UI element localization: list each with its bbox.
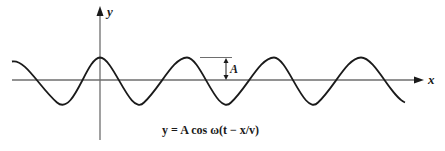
wave-diagram: x y A y = A cos ω(t − x/v) <box>0 0 445 151</box>
amplitude-label: A <box>229 62 238 76</box>
cosine-wave <box>12 58 405 105</box>
y-axis-arrow-icon <box>97 6 104 16</box>
amplitude-arrow-down-icon <box>224 75 229 80</box>
amplitude-arrow-up-icon <box>224 58 229 63</box>
x-axis-arrow-icon <box>414 77 424 84</box>
x-axis-label: x <box>427 72 435 87</box>
wave-formula: y = A cos ω(t − x/v) <box>162 123 259 137</box>
y-axis-label: y <box>105 4 113 19</box>
